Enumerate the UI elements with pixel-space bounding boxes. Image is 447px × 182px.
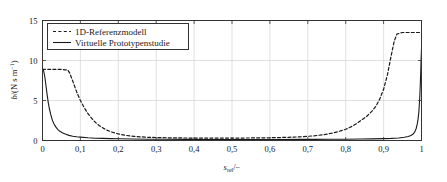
chart-figure: 00,10,20,30,40,50,60,70,80,91 051015 sre…	[0, 0, 447, 182]
x-tick-label: 0,3	[151, 144, 162, 154]
y-axis-tick-labels: 051015	[29, 16, 38, 146]
y-axis-title: b/(N s m−1)	[9, 60, 19, 99]
x-tick-label: 0,2	[113, 144, 124, 154]
legend-label-virtual-prototype: Virtuelle Prototypenstudie	[75, 38, 170, 48]
x-tick-label: 1	[419, 144, 423, 154]
x-tick-label: 0,6	[265, 144, 276, 154]
y-tick-label: 0	[33, 136, 37, 146]
x-tick-label: 0,4	[189, 144, 200, 154]
x-tick-label: 0,8	[340, 144, 351, 154]
legend-label-reference-model: 1D-Referenzmodell	[75, 27, 147, 37]
y-tick-label: 10	[29, 56, 38, 66]
x-tick-label: 0,9	[378, 144, 389, 154]
x-tick-label: 0,7	[302, 144, 313, 154]
y-tick-label: 5	[33, 96, 37, 106]
x-axis-title: srel/−	[224, 162, 241, 173]
x-axis-tick-labels: 00,10,20,30,40,50,60,70,80,91	[40, 144, 423, 154]
damping-coefficient-line-chart: 00,10,20,30,40,50,60,70,80,91 051015 sre…	[0, 0, 447, 182]
y-tick-label: 15	[29, 16, 38, 26]
x-tick-label: 0	[40, 144, 44, 154]
x-tick-label: 0,1	[75, 144, 86, 154]
chart-legend: 1D-Referenzmodell Virtuelle Prototypenst…	[48, 24, 189, 50]
x-tick-label: 0,5	[227, 144, 238, 154]
